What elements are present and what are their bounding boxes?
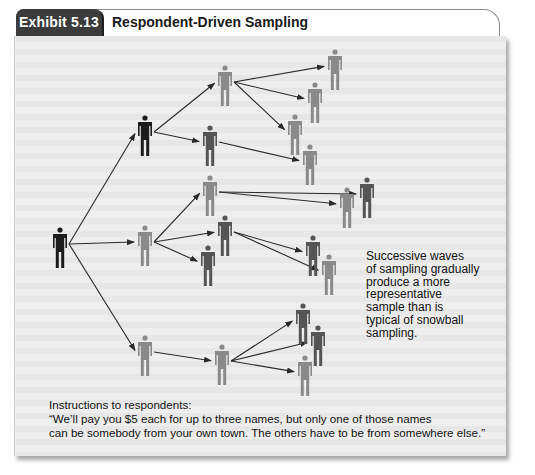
referral-arrow [154,83,214,132]
referral-arrow [234,82,285,130]
referral-arrow [231,342,307,361]
note-line: sampling. [366,327,506,340]
referral-arrow [154,352,211,361]
person-icon [138,335,152,376]
instructions-quote-line-1: “We’ll pay you $5 each for up to three n… [49,412,509,426]
person-icon [296,303,310,344]
referral-arrow [234,232,302,251]
person-icon [203,175,217,216]
person-icon [322,254,336,295]
person-icon [53,227,67,268]
person-icon [298,355,312,396]
instructions-heading: Instructions to respondents: [49,398,509,412]
respondent-instructions: Instructions to respondents: “We’ll pay … [49,398,509,440]
referral-arrow [69,242,134,244]
referral-arrow [234,82,304,99]
person-icon [218,65,232,106]
referral-arrow [154,193,200,242]
referral-arrow [234,66,324,82]
referral-arrow [154,242,197,261]
person-icon [328,49,342,90]
respondent-figures [53,49,374,396]
person-icon [203,125,217,166]
referral-arrow [69,134,135,244]
note-line: of sampling gradually [366,263,506,276]
referral-arrow [231,321,292,361]
person-icon [218,215,232,256]
person-icon [288,114,302,155]
referral-arrow [234,232,318,270]
person-icon [303,144,317,185]
person-icon [138,225,152,266]
person-icon [308,82,322,123]
person-icon [138,115,152,156]
note-line: Successive waves [366,250,506,263]
referral-arrow [69,244,135,350]
instructions-quote-line-2: can be somebody from your own town. The … [49,426,509,440]
referral-arrow [231,361,294,372]
referral-arrow [154,132,199,142]
referral-arrow [154,232,214,242]
person-icon [311,325,325,366]
diagram-annotation: Successive waves of sampling gradually p… [366,250,506,340]
referral-arrow [219,142,299,161]
person-icon [360,177,374,218]
person-icon [215,344,229,385]
person-icon [201,245,215,286]
note-line: typical of snowball [366,314,506,327]
